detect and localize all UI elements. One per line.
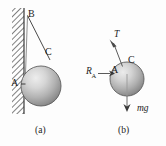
wall-hatched — [12, 8, 24, 114]
label-a-contact-point-b: A — [111, 65, 118, 75]
caption-panel-b: (b) — [118, 126, 129, 136]
figure-canvas — [0, 0, 166, 146]
reaction-force-symbol: R — [86, 66, 92, 76]
tension-arrow — [110, 40, 123, 67]
string-bc — [26, 16, 51, 75]
label-c-tangent-point-b: C — [128, 55, 135, 65]
label-tension-t: T — [114, 30, 119, 40]
sphere-panel-a — [21, 66, 61, 106]
label-c-tangent-point-a: C — [45, 47, 52, 57]
caption-panel-a: (a) — [35, 126, 46, 136]
panel-b-graphics — [98, 40, 144, 113]
label-weight-mg: mg — [137, 104, 149, 114]
physics-figure: B C A (a) T C A RA mg (b) — [0, 0, 166, 146]
label-b-wall-attachment: B — [28, 9, 35, 19]
reaction-force-subscript: A — [92, 72, 97, 79]
panel-a-graphics — [12, 8, 61, 114]
label-reaction-force: RA — [86, 67, 97, 78]
label-a-contact-point-a: A — [11, 78, 18, 88]
